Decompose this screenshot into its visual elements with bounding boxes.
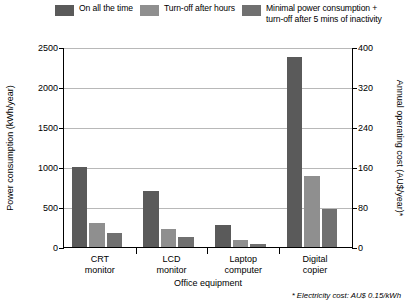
chart-legend: On all the time Turn-off after hours Min… bbox=[55, 3, 403, 29]
bar bbox=[215, 225, 231, 247]
bar bbox=[322, 209, 338, 247]
bar bbox=[107, 233, 123, 247]
y-tick-right bbox=[352, 208, 357, 209]
category-label: Digital copier bbox=[279, 254, 351, 276]
y-tick-label-right: 240 bbox=[358, 123, 398, 133]
y-tick-right bbox=[352, 48, 357, 49]
bar bbox=[161, 229, 177, 247]
y-tick-right bbox=[352, 248, 357, 249]
bar bbox=[143, 191, 159, 247]
y-tick-label-left: 0 bbox=[18, 243, 58, 253]
x-axis-title: Office equipment bbox=[63, 278, 353, 288]
y-tick-label-left: 2500 bbox=[18, 43, 58, 53]
y-tick-label-right: 320 bbox=[358, 83, 398, 93]
y-tick-label-left: 500 bbox=[18, 203, 58, 213]
legend-label-2: Minimal power consumption + turn-off aft… bbox=[266, 3, 382, 24]
y-axis-right-title: Annual operating cost (AU$/year)* bbox=[395, 80, 405, 217]
bar bbox=[178, 237, 194, 247]
bar bbox=[233, 240, 249, 247]
legend-label-0: On all the time bbox=[79, 3, 133, 14]
legend-swatch-minimal-power bbox=[242, 5, 261, 16]
y-tick-right bbox=[352, 88, 357, 89]
y-tick-right bbox=[352, 168, 357, 169]
y-axis-left-title: Power consumption (kWh/year) bbox=[5, 85, 15, 211]
y-tick-label-left: 1500 bbox=[18, 123, 58, 133]
chart-footnote: * Electricity cost: AU$ 0.15/kWh bbox=[292, 291, 401, 300]
category-label: LCD monitor bbox=[136, 254, 208, 276]
bar bbox=[250, 244, 266, 247]
legend-item-2: Minimal power consumption + turn-off aft… bbox=[242, 3, 382, 24]
y-tick-label-left: 2000 bbox=[18, 83, 58, 93]
legend-item-1: Turn-off after hours bbox=[140, 3, 235, 16]
bar-group bbox=[64, 48, 352, 247]
bar bbox=[304, 176, 320, 247]
chart-root: On all the time Turn-off after hours Min… bbox=[0, 0, 406, 307]
y-tick-label-right: 80 bbox=[358, 203, 398, 213]
y-tick-label-right: 160 bbox=[358, 163, 398, 173]
y-tick-label-right: 0 bbox=[358, 243, 398, 253]
y-tick-left bbox=[59, 248, 64, 249]
y-tick-right bbox=[352, 128, 357, 129]
y-tick-label-left: 1000 bbox=[18, 163, 58, 173]
plot-area: 05001000150020002500 080160240320400 Pow… bbox=[63, 48, 353, 248]
legend-swatch-on-all-the-time bbox=[55, 5, 74, 16]
legend-label-1: Turn-off after hours bbox=[164, 3, 235, 14]
legend-item-0: On all the time bbox=[55, 3, 133, 16]
category-label: Laptop computer bbox=[207, 254, 279, 276]
bar bbox=[89, 223, 105, 247]
y-tick-label-right: 400 bbox=[358, 43, 398, 53]
bar bbox=[287, 57, 303, 247]
bar bbox=[72, 167, 88, 247]
category-label: CRT monitor bbox=[64, 254, 136, 276]
legend-swatch-turn-off-after-hours bbox=[140, 5, 159, 16]
